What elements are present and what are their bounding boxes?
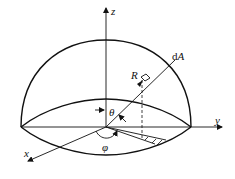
phi-arc (96, 131, 117, 138)
theta-label: θ (109, 106, 115, 118)
area-element-square (141, 74, 150, 81)
wedge-tick-1 (145, 137, 148, 140)
phi-label: φ (102, 141, 108, 153)
radius-line (106, 60, 175, 127)
y-axis-label: y (214, 114, 220, 126)
area-element-label: dA (172, 50, 185, 62)
x-axis (28, 127, 106, 161)
x-axis-label: x (23, 147, 29, 159)
wedge-tick-2 (152, 139, 156, 143)
radius-label: R (130, 69, 138, 81)
z-axis-label: z (110, 5, 116, 17)
theta-arrow-right (119, 115, 126, 122)
hemisphere-diagram: z y x R dA θ φ (0, 0, 235, 179)
